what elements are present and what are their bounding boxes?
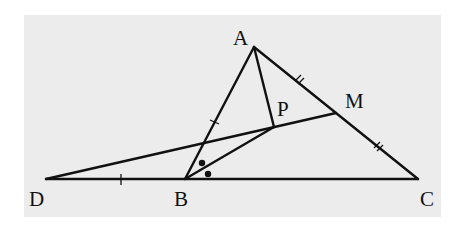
geometry-figure: A B C D M P xyxy=(0,0,464,226)
label-D: D xyxy=(29,187,44,211)
angle-dot-ABP xyxy=(199,160,205,166)
label-A: A xyxy=(233,26,249,50)
label-M: M xyxy=(345,89,364,113)
label-P: P xyxy=(277,97,289,121)
label-C: C xyxy=(420,187,434,211)
label-B: B xyxy=(174,187,188,211)
angle-dot-PBC xyxy=(205,171,211,177)
